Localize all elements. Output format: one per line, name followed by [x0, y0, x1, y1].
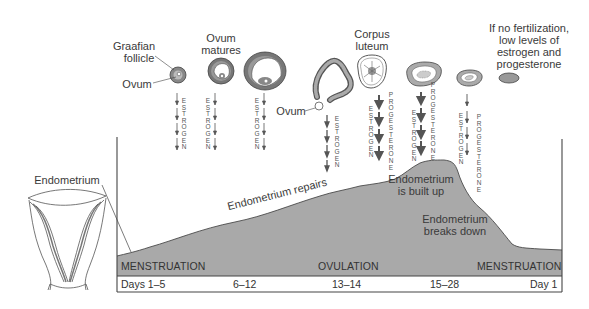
- estrogen-arrows-ovulation: [325, 115, 329, 171]
- breaks-down-line2: breaks down: [420, 225, 490, 237]
- endometrium-breaks-down-label: Endometrium breaks down: [420, 213, 490, 237]
- estrogen-text-col6: ESTROGEN: [411, 110, 417, 163]
- mature-follicle-drawing: [244, 52, 286, 90]
- estrogen-text-col5: ESTROGEN: [368, 106, 374, 159]
- regressing-corpus-luteum-drawing: [457, 70, 482, 86]
- estrogen-arrows-regressing: [466, 94, 469, 155]
- maturing-follicle-drawing: [208, 58, 234, 84]
- no-fertilization-line2: low levels of: [476, 34, 582, 46]
- uterus-drawing: [28, 189, 106, 290]
- graafian-line2: follicle: [104, 52, 164, 64]
- estrogen-arrows-corpus-luteum: [376, 95, 383, 159]
- progesterone-text-col7: PROGESTERONE: [476, 114, 482, 193]
- built-up-line1: Endometrium: [386, 173, 456, 185]
- progesterone-text-col6: PROGESTERONE: [430, 82, 436, 161]
- ovum-label-left: Ovum: [120, 78, 154, 90]
- no-fertilization-line1: If no fertilization,: [476, 22, 582, 34]
- phase-menstruation-start: MENSTRUATION: [121, 260, 205, 272]
- estrogen-text-col3: ESTROGEN: [254, 98, 260, 151]
- estrogen-text-col7: ESTROGEN: [458, 113, 464, 166]
- estrogen-arrows-corpus-luteum-2: [418, 92, 425, 154]
- estrogen-arrows-thin: [176, 93, 266, 150]
- graafian-follicle-label: Graafian follicle: [104, 40, 164, 64]
- corpus-luteum-drawing: [358, 55, 387, 88]
- no-fertilization-line4: progesterone: [476, 58, 582, 70]
- ovum-released-label: Ovum: [276, 105, 306, 117]
- graafian-follicle-drawing: [170, 67, 186, 83]
- graafian-line1: Graafian: [104, 40, 164, 52]
- ovum-matures-line2: matures: [198, 44, 244, 56]
- built-up-line2: is built up: [386, 185, 456, 197]
- no-fertilization-label: If no fertilization, low levels of estro…: [476, 22, 582, 70]
- progesterone-text-col5: PROGESTERONE: [388, 92, 394, 171]
- day-label-3: 13–14: [332, 278, 361, 290]
- endometrium-built-up-label: Endometrium is built up: [386, 173, 456, 197]
- corpus-luteum-line1: Corpus: [352, 28, 392, 40]
- phase-ovulation: OVULATION: [318, 260, 379, 272]
- ovum-matures-label: Ovum matures: [198, 32, 244, 56]
- endometrium-label: Endometrium: [32, 174, 102, 186]
- estrogen-text-col2: ESTROGEN: [205, 98, 211, 151]
- day-label-1: Days 1–5: [121, 278, 165, 290]
- day-label-2: 6–12: [233, 278, 256, 290]
- estrogen-text-col4: ESTROGEN: [334, 116, 340, 169]
- breaks-down-line1: Endometrium: [420, 213, 490, 225]
- corpus-luteum-stage2-drawing: [407, 62, 442, 86]
- released-ovum-drawing: [315, 102, 323, 110]
- ovum-matures-line1: Ovum: [198, 32, 244, 44]
- endometrium-thickness-area: [117, 160, 562, 276]
- no-fertilization-line3: estrogen and: [476, 46, 582, 58]
- corpus-luteum-line2: luteum: [352, 40, 392, 52]
- released-ovum-leader-line: [305, 108, 315, 111]
- estrogen-text-col1: ESTROGEN: [181, 98, 187, 151]
- corpus-luteum-label: Corpus luteum: [352, 28, 392, 52]
- corpus-albicans-drawing: [499, 73, 519, 83]
- ruptured-follicle-drawing: [316, 61, 351, 100]
- day-label-4: 15–28: [430, 278, 459, 290]
- phase-menstruation-end: MENSTRUATION: [477, 260, 561, 272]
- day-label-5: Day 1: [530, 278, 557, 290]
